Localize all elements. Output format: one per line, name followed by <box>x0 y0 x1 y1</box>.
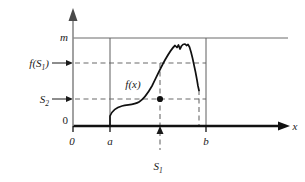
x-axis-name-label: x <box>292 120 298 132</box>
function-curve <box>110 44 199 126</box>
label-function-f-x: f(x) <box>125 78 141 91</box>
x-tick-label-a: a <box>107 135 113 147</box>
figure-container: m 0 f(S1) S2 f(x) 0 a b S1 x <box>0 0 305 182</box>
y-axis-arrowhead <box>69 8 78 21</box>
label-s2: S2 <box>40 93 50 108</box>
arrowhead-s2 <box>66 96 73 102</box>
x-tick-label-origin: 0 <box>69 135 75 147</box>
x-tick-label-b: b <box>203 135 209 147</box>
label-s1-subscript: 1 <box>159 166 163 175</box>
arrowhead-f-s1 <box>66 60 73 66</box>
label-f-of-s1-base: f(S <box>29 57 42 70</box>
sample-point-marker <box>157 96 163 102</box>
label-f-of-s1-close: ) <box>44 57 49 70</box>
function-graph-figure: m 0 f(S1) S2 f(x) 0 a b S1 x <box>0 0 305 182</box>
label-s1: S1 <box>153 160 162 175</box>
x-axis-arrowhead <box>278 122 290 131</box>
label-m: m <box>60 31 68 43</box>
label-f-of-s1: f(S1) <box>29 57 49 72</box>
label-zero-on-axis: 0 <box>63 114 69 126</box>
label-s2-subscript: 2 <box>45 99 49 108</box>
